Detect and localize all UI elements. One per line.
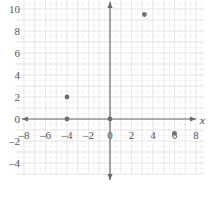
x-tick--2: –2 xyxy=(82,129,94,141)
y-tick-10: 10 xyxy=(9,3,21,15)
x-tick-0: 0 xyxy=(107,129,113,141)
data-point xyxy=(65,117,70,122)
x-tick-8: 8 xyxy=(193,129,199,141)
axes xyxy=(22,2,196,180)
x-tick-labels: –8–6–4–202468 xyxy=(18,129,200,141)
x-tick-4: 4 xyxy=(150,129,156,141)
y-tick-8: 8 xyxy=(15,25,21,37)
scatter-plot-svg: –8–6–4–202468 –4–20246810 x xyxy=(0,0,212,199)
data-point xyxy=(65,95,70,100)
x-axis-label: x xyxy=(199,114,205,126)
x-tick--4: –4 xyxy=(61,129,74,141)
y-tick-4: 4 xyxy=(15,69,21,81)
y-tick--4: –4 xyxy=(8,157,21,169)
coordinate-plane-chart: –8–6–4–202468 –4–20246810 x xyxy=(0,0,212,199)
data-point xyxy=(172,131,177,136)
y-tick-2: 2 xyxy=(15,91,21,103)
y-tick-6: 6 xyxy=(15,47,21,59)
x-tick-2: 2 xyxy=(129,129,135,141)
y-tick--2: –2 xyxy=(8,135,20,147)
data-point xyxy=(142,12,147,17)
y-tick-0: 0 xyxy=(15,113,21,125)
data-point xyxy=(108,117,113,122)
x-tick--6: –6 xyxy=(39,129,52,141)
